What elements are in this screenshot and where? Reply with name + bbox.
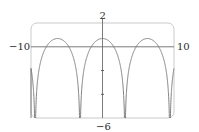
function-plot: −10 10 2 −6 [0, 0, 199, 132]
y-min-label: −6 [96, 121, 111, 132]
x-min-label: −10 [9, 41, 30, 52]
x-max-label: 10 [177, 41, 190, 52]
y-max-label: 2 [100, 10, 106, 21]
